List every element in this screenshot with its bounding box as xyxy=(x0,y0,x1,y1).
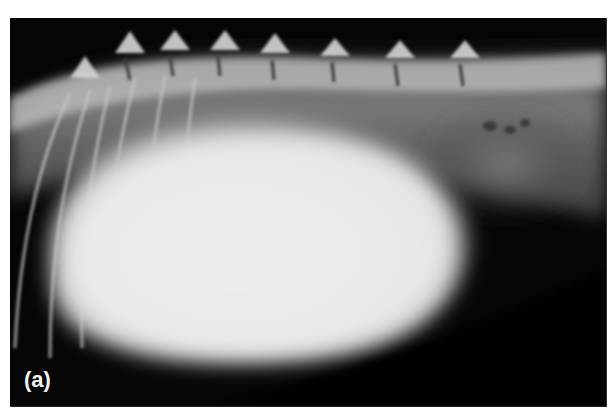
radiograph-image: (a) xyxy=(10,18,607,407)
radiograph-render xyxy=(10,18,606,406)
figure-label: (a) xyxy=(24,367,51,393)
